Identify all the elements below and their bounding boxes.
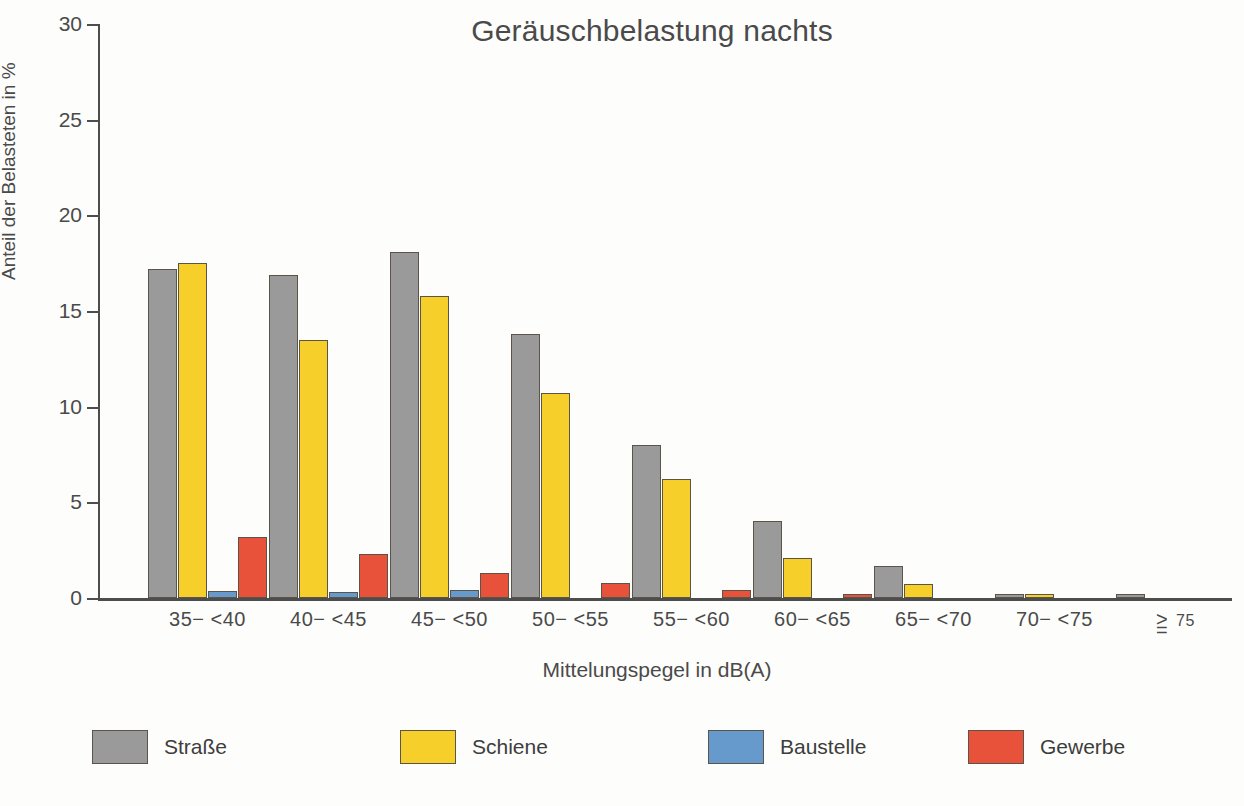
bar-gewerbe [238, 537, 267, 598]
bar-baustelle [208, 591, 237, 598]
bar-group [1116, 24, 1235, 598]
plot-area: 051015202530 [98, 24, 1232, 598]
x-tick-label: >=75 [1156, 608, 1195, 631]
legend-label: Straße [164, 735, 227, 759]
bar-schiene [178, 263, 207, 598]
legend-item-gewerbe[interactable]: Gewerbe [968, 730, 1125, 764]
legend-label: Schiene [472, 735, 548, 759]
greater-equal-icon: >= [1156, 611, 1172, 631]
bar-group [511, 24, 630, 598]
bar-schiene [541, 393, 570, 598]
legend-swatch [400, 730, 456, 764]
bar-strasse [753, 521, 782, 598]
legend-label: Gewerbe [1040, 735, 1125, 759]
y-tick-mark [87, 407, 98, 409]
bar-baustelle [329, 592, 358, 598]
x-tick-label: 50− <55 [532, 608, 609, 631]
bar-strasse [511, 334, 540, 598]
bar-gewerbe [480, 573, 509, 598]
y-tick-mark [87, 311, 98, 313]
bar-gewerbe [601, 583, 630, 598]
y-axis-line [98, 24, 100, 598]
bar-schiene [1025, 594, 1054, 598]
x-tick-label-number: 75 [1176, 612, 1195, 629]
y-tick-label: 10 [59, 394, 82, 418]
bar-group [148, 24, 267, 598]
bar-group [995, 24, 1114, 598]
bar-group [874, 24, 993, 598]
legend-swatch [92, 730, 148, 764]
legend-item-schiene[interactable]: Schiene [400, 730, 548, 764]
x-tick-label: 55− <60 [653, 608, 730, 631]
x-tick-label: 35− <40 [169, 608, 246, 631]
y-tick-label: 0 [70, 586, 82, 610]
bar-baustelle [450, 590, 479, 598]
bar-strasse [390, 252, 419, 598]
y-tick-mark [87, 120, 98, 122]
legend-swatch [968, 730, 1024, 764]
x-tick-label: 45− <50 [411, 608, 488, 631]
y-tick-label: 5 [70, 490, 82, 514]
bar-group [632, 24, 751, 598]
bar-group [269, 24, 388, 598]
legend-swatch [708, 730, 764, 764]
bar-group [753, 24, 872, 598]
bar-strasse [995, 594, 1024, 598]
bar-strasse [269, 275, 298, 598]
y-tick-mark [87, 215, 98, 217]
bar-gewerbe [843, 594, 872, 598]
chart-page: Geräuschbelastung nachts Anteil der Bela… [0, 0, 1244, 806]
y-axis-title: Anteil der Belasteten in % [0, 0, 20, 280]
bar-group [390, 24, 509, 598]
bar-strasse [632, 445, 661, 598]
bar-strasse [148, 269, 177, 598]
x-tick-label: 70− <75 [1016, 608, 1093, 631]
bar-schiene [904, 584, 933, 598]
bar-schiene [783, 558, 812, 598]
y-tick-label: 20 [59, 203, 82, 227]
bar-schiene [299, 340, 328, 598]
legend-item-strae[interactable]: Straße [92, 730, 227, 764]
bar-gewerbe [722, 590, 751, 598]
y-tick-label: 15 [59, 299, 82, 323]
bar-strasse [874, 566, 903, 598]
chart-legend: StraßeSchieneBaustelleGewerbe [0, 730, 1244, 790]
bar-schiene [420, 296, 449, 598]
bar-gewerbe [359, 554, 388, 598]
legend-label: Baustelle [780, 735, 866, 759]
x-tick-label: 40− <45 [290, 608, 367, 631]
bar-schiene [662, 479, 691, 598]
y-tick-label: 30 [59, 12, 82, 36]
x-tick-label: 65− <70 [895, 608, 972, 631]
x-tick-label: 60− <65 [774, 608, 851, 631]
y-tick-mark [87, 24, 98, 26]
y-tick-label: 25 [59, 107, 82, 131]
y-tick-mark [87, 502, 98, 504]
x-axis-line [98, 598, 1232, 601]
bar-strasse [1116, 594, 1145, 598]
y-tick-mark [87, 598, 98, 600]
x-axis-title: Mittelungspegel in dB(A) [0, 658, 1244, 682]
legend-item-baustelle[interactable]: Baustelle [708, 730, 866, 764]
